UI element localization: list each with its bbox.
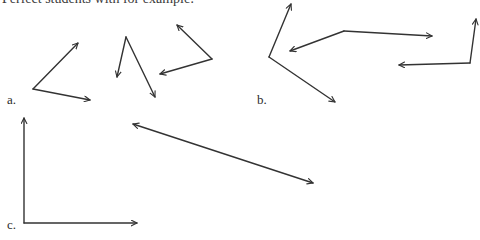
vector-arrow [177, 25, 212, 59]
vector-arrow [117, 37, 126, 77]
figure-b-angle [269, 4, 335, 102]
figure-b2-angle [290, 31, 432, 51]
figure-c-right-angle [24, 118, 137, 223]
vector-arrow [344, 31, 432, 36]
vector-drawing-canvas [0, 0, 480, 240]
figure-a3-angle [160, 25, 212, 74]
vector-arrow [399, 63, 470, 65]
vector-arrow [33, 89, 90, 100]
vector-arrow [290, 31, 344, 51]
vector-arrow [33, 43, 78, 89]
vector-arrow [126, 37, 155, 97]
vector-arrow [470, 19, 476, 63]
figure-b3-angle [399, 19, 476, 65]
figure-a-angle [33, 43, 90, 100]
vector-arrow [160, 59, 212, 74]
vector-arrow [269, 4, 291, 57]
double-arrow-line [133, 124, 313, 183]
vector-arrow [269, 57, 335, 102]
figure-a2-angle [117, 37, 155, 97]
